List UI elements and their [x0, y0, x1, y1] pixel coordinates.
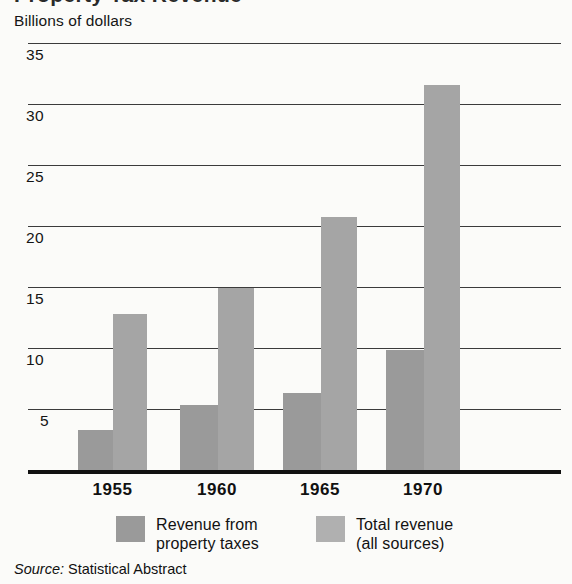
x-tick-label-1965: 1965: [280, 480, 360, 500]
bar-property-taxes-1960: [180, 405, 218, 471]
bar-property-taxes-1970: [386, 350, 424, 471]
x-axis-baseline: [28, 470, 561, 474]
legend-swatch-total: [316, 516, 345, 542]
bar-property-taxes-1955: [78, 430, 113, 471]
legend-item-prop: Revenue from property taxes: [116, 515, 259, 553]
bar-chart: 3530252015105 1955196019651970: [0, 0, 572, 500]
x-tick-label-1960: 1960: [177, 480, 257, 500]
chart-legend: Revenue from property taxesTotal revenue…: [0, 515, 572, 563]
bar-total-revenue-1960: [218, 288, 254, 471]
x-tick-label-1970: 1970: [383, 480, 463, 500]
x-tick-label-1955: 1955: [73, 480, 153, 500]
legend-label-prop: Revenue from property taxes: [156, 515, 259, 553]
legend-label-total: Total revenue (all sources): [356, 515, 453, 553]
bars-layer: [0, 0, 572, 471]
source-label: Source:: [14, 561, 64, 577]
legend-item-total: Total revenue (all sources): [316, 515, 453, 553]
source-value: Statistical Abstract: [64, 561, 187, 577]
legend-swatch-prop: [116, 516, 145, 542]
bar-total-revenue-1970: [424, 85, 460, 471]
bar-property-taxes-1965: [283, 393, 321, 471]
bar-total-revenue-1965: [321, 217, 357, 471]
bar-total-revenue-1955: [113, 314, 147, 471]
source-note: Source: Statistical Abstract: [14, 561, 186, 577]
